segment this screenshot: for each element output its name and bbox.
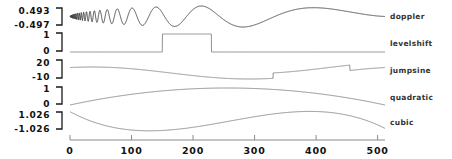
panel-quadratic: 1 0 quadratic [43,84,433,109]
x-tick-label: 400 [305,145,327,156]
levelshift-trace [70,34,385,52]
doppler-ymin-label: -0.497 [14,20,50,30]
quadratic-range-bracket [56,87,62,104]
multi-panel-signal-plot: 0.493 -0.497 doppler 1 0 levelshift 20 -… [0,0,452,159]
cubic-ymax-label: 1.026 [19,110,50,120]
series-label-levelshift: levelshift [390,39,433,48]
cubic-range-bracket [56,112,62,129]
quadratic-ymin-label: 0 [43,99,50,109]
x-tick-label: 500 [367,145,389,156]
series-label-quadratic: quadratic [390,93,433,102]
series-label-cubic: cubic [390,118,414,127]
x-axis-tick-labels: 0100200300400500 [66,145,388,156]
series-label-doppler: doppler [390,12,425,21]
doppler-trace [70,6,385,27]
chart-figure: 0.493 -0.497 doppler 1 0 levelshift 20 -… [0,0,452,159]
panel-doppler: 0.493 -0.497 doppler [14,6,425,30]
x-tick-label: 200 [182,145,204,156]
x-axis-ticks [70,135,378,140]
jumpsine-range-bracket [56,60,62,78]
quadratic-ymax-label: 1 [43,84,50,94]
cubic-ymin-label: -1.026 [14,124,50,134]
x-tick-label: 300 [243,145,265,156]
jumpsine-ymin-label: -10 [32,72,50,82]
levelshift-ymax-label: 1 [43,30,50,40]
quadratic-trace [70,88,385,105]
x-tick-label: 100 [120,145,142,156]
series-label-jumpsine: jumpsine [389,66,431,75]
doppler-ymax-label: 0.493 [19,6,50,16]
x-tick-label: 0 [66,145,73,156]
jumpsine-trace [70,65,385,79]
panel-levelshift: 1 0 levelshift [43,30,432,56]
levelshift-range-bracket [56,33,62,51]
cubic-trace [70,111,385,130]
panel-jumpsine: 20 -10 jumpsine [32,58,431,82]
doppler-range-bracket [56,8,62,25]
x-axis: 0100200300400500 [66,135,388,156]
levelshift-ymin-label: 0 [43,46,50,56]
jumpsine-ymax-label: 20 [36,58,50,68]
panel-cubic: 1.026 -1.026 cubic [14,110,413,134]
